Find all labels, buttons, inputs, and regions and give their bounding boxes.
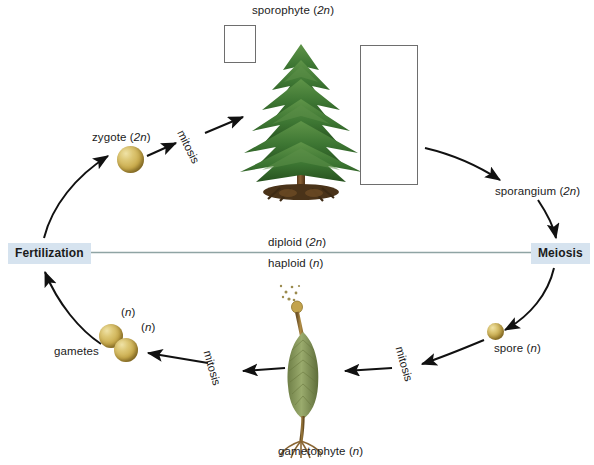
- gamete-sphere-2: [114, 338, 138, 362]
- life-cycle-diagram: sporophyte (2n) zygote (2n) sporangium (…: [0, 0, 594, 465]
- tree-roots: [263, 184, 339, 201]
- diploid-label: diploid (2n): [268, 236, 326, 248]
- meiosis-stage-box[interactable]: Meiosis: [531, 243, 590, 264]
- gametophyte-label: gametophyte (n): [278, 445, 363, 457]
- spore-label: spore (n): [494, 342, 541, 354]
- fertilization-stage-box[interactable]: Fertilization: [8, 243, 91, 264]
- released-spores: [280, 285, 300, 302]
- embryo-inset-box: [224, 25, 256, 63]
- sporangium-inset-box: [360, 45, 418, 185]
- gamete-n-label-1: (n): [121, 306, 135, 318]
- sporophyte-label: sporophyte (2n): [252, 4, 334, 16]
- gamete-n-label-2: (n): [141, 321, 155, 333]
- gametophyte-illustration: [280, 285, 322, 458]
- illustration-layer: [0, 0, 594, 465]
- sporangium-label: sporangium (2n): [495, 185, 580, 197]
- haploid-label: haploid (n): [268, 257, 323, 269]
- sporophyte-tree-illustration: [240, 44, 362, 201]
- zygote-sphere: [117, 146, 144, 173]
- zygote-label: zygote (2n): [92, 131, 151, 143]
- spore-sphere: [487, 323, 504, 340]
- gametes-label: gametes: [54, 345, 99, 357]
